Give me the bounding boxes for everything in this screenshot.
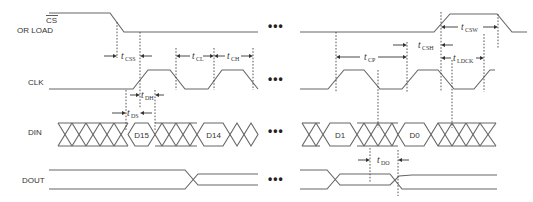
clk-label: CLK	[28, 78, 44, 87]
svg-text:LDCK: LDCK	[457, 58, 474, 64]
svg-text:DS: DS	[131, 113, 139, 119]
din-undefined-left-end	[230, 123, 258, 146]
svg-text:t: t	[227, 51, 230, 61]
svg-text:CH: CH	[231, 56, 240, 62]
svg-text:CSW: CSW	[465, 27, 478, 33]
din-undefined-mid	[155, 123, 197, 146]
svg-text:DO: DO	[381, 160, 390, 166]
svg-text:t: t	[461, 22, 464, 32]
ellipsis-column: ••• ••• ••• •••	[268, 19, 284, 186]
svg-text:t: t	[418, 40, 421, 50]
tcl-annotation: t CL	[176, 51, 214, 62]
din-undefined-right-start	[302, 123, 323, 146]
tcsh-annotation: t CSH	[393, 40, 453, 51]
svg-text:t: t	[377, 155, 380, 165]
tds-annotation: t DS	[112, 108, 152, 119]
tch-annotation: t CH	[214, 51, 253, 62]
tdh-annotation: t DH	[130, 90, 164, 101]
clk-ellipsis: •••	[268, 72, 284, 86]
signal-labels: CS OR LOAD CLK DIN DOUT	[17, 16, 58, 186]
dout-label: DOUT	[22, 176, 45, 185]
din-undefined-left	[58, 123, 128, 146]
svg-text:CSH: CSH	[422, 45, 434, 51]
svg-text:t: t	[141, 90, 144, 100]
dout-ellipsis: •••	[268, 172, 284, 186]
tldck-annotation: t LDCK	[441, 53, 484, 64]
svg-text:DH: DH	[145, 95, 154, 101]
cs-waveform	[49, 13, 527, 32]
din-undefined-between	[357, 123, 398, 146]
svg-text:t: t	[192, 51, 195, 61]
tdo-annotation: t DO	[358, 155, 409, 166]
tcp-annotation: t CP	[336, 52, 407, 63]
timing-diagram: CS OR LOAD CLK DIN DOUT ••• ••• ••• •••	[0, 0, 533, 202]
svg-text:t: t	[121, 51, 124, 61]
d15-label: D15	[134, 131, 149, 140]
din-undefined-right-end	[431, 123, 496, 146]
svg-text:CSS: CSS	[125, 56, 136, 62]
din-ellipsis: •••	[268, 124, 284, 138]
svg-text:t: t	[364, 52, 367, 62]
svg-text:CP: CP	[368, 57, 376, 63]
d14-label: D14	[206, 131, 221, 140]
din-label: DIN	[28, 128, 42, 137]
svg-text:t: t	[127, 108, 130, 118]
svg-text:CL: CL	[196, 56, 204, 62]
tcss-annotation: t CSS	[104, 51, 152, 62]
timing-guides	[117, 12, 498, 196]
d1-label: D1	[335, 131, 346, 140]
or-load-label: OR LOAD	[17, 26, 53, 35]
cs-ellipsis: •••	[268, 19, 284, 33]
d0-label: D0	[409, 131, 420, 140]
tcsw-annotation: t CSW	[441, 22, 498, 33]
cs-label: CS	[46, 16, 57, 25]
svg-text:t: t	[453, 53, 456, 63]
